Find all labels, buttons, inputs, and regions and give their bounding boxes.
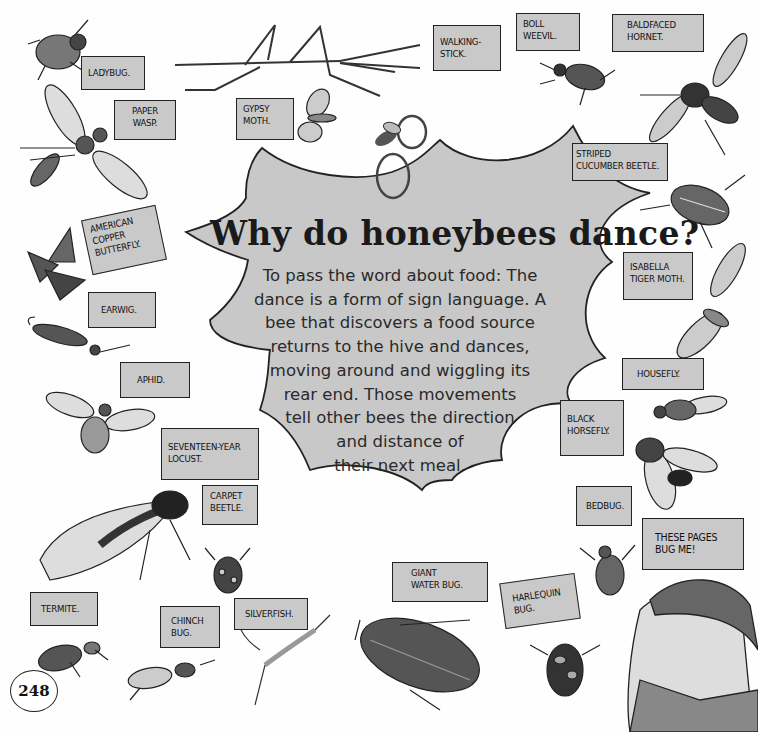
- label-text: HOUSEFLY.: [637, 368, 697, 380]
- label-text: BALDFACED: [627, 19, 697, 31]
- label-walking-stick: WALKING- STICK.: [433, 25, 501, 71]
- termite-icon: [36, 641, 108, 677]
- label-seventeen-year-locust: SEVENTEEN-YEAR LOCUST.: [161, 428, 259, 480]
- paper-wasp-icon: [20, 80, 154, 206]
- ladybug-icon: [28, 20, 88, 80]
- walking-stick-icon: [175, 25, 420, 96]
- black-horsefly-icon: [636, 438, 720, 513]
- label-text: STICK.: [440, 48, 494, 60]
- harlequin-bug-icon: [530, 644, 600, 696]
- label-text: SEVENTEEN-YEAR: [168, 441, 252, 453]
- label-text: CUCUMBER BEETLE.: [576, 160, 661, 172]
- label-chinch-bug: CHINCH BUG.: [160, 606, 220, 648]
- label-text: BEDBUG.: [586, 500, 625, 512]
- label-text: GIANT: [411, 567, 481, 579]
- giant-water-bug-icon: [351, 604, 489, 710]
- striped-cucumber-beetle-icon: [640, 175, 745, 248]
- label-termite: TERMITE.: [30, 592, 98, 626]
- label-text: PAPER: [121, 105, 169, 117]
- label-ladybug: LADYBUG.: [81, 56, 145, 90]
- boy-figure-icon: [628, 580, 758, 732]
- label-text: WATER BUG.: [411, 579, 481, 591]
- gypsy-moth-icon: [298, 85, 336, 142]
- label-text: CHINCH: [171, 615, 213, 627]
- label-these-pages-bug-me: THESE PAGES BUG ME!: [642, 518, 744, 570]
- label-isabella-tiger-moth: ISABELLA TIGER MOTH.: [623, 252, 693, 300]
- label-text: LADYBUG.: [88, 67, 138, 79]
- label-bedbug: BEDBUG.: [576, 486, 632, 526]
- label-text: THESE PAGES: [655, 531, 737, 543]
- label-black-horsefly: BLACK HORSEFLY.: [560, 400, 624, 456]
- label-text: WEEVIL.: [523, 30, 573, 42]
- bedbug-icon: [580, 545, 635, 595]
- label-text: LOCUST.: [168, 453, 252, 465]
- book-page: Why do honeybees dance? To pass the word…: [0, 0, 758, 732]
- label-text: BUG ME!: [655, 543, 737, 555]
- label-housefly: HOUSEFLY.: [622, 358, 704, 390]
- label-boll-weevil: BOLL WEEVIL.: [516, 13, 580, 51]
- label-carpet-beetle: CARPET BEETLE.: [202, 485, 258, 525]
- housefly-icon: [654, 393, 728, 420]
- label-text: TIGER MOTH.: [630, 273, 686, 285]
- label-text: APHID.: [137, 374, 183, 386]
- label-silverfish: SILVERFISH.: [234, 598, 308, 630]
- label-text: GYPSY: [243, 103, 287, 115]
- label-earwig: EARWIG.: [88, 292, 156, 328]
- label-text: TERMITE.: [41, 603, 91, 615]
- label-text: CARPET: [210, 490, 251, 502]
- chinch-bug-icon: [127, 660, 215, 700]
- label-text: HORNET.: [627, 31, 697, 43]
- label-text: ISABELLA: [630, 261, 686, 273]
- label-aphid: APHID.: [120, 362, 190, 398]
- label-text: BEETLE.: [210, 502, 251, 514]
- label-text: STRIPED: [576, 148, 661, 160]
- label-giant-water-bug: GIANT WATER BUG.: [392, 562, 488, 602]
- label-paper-wasp: PAPER WASP.: [114, 100, 176, 140]
- label-text: MOTH.: [243, 115, 287, 127]
- page-number: 248: [10, 670, 58, 712]
- label-text: EARWIG.: [101, 304, 149, 316]
- label-baldfaced-hornet: BALDFACED HORNET.: [612, 14, 704, 52]
- seventeen-year-locust-icon: [40, 491, 190, 580]
- label-text: WALKING-: [440, 36, 494, 48]
- label-text: BLACK: [567, 413, 617, 425]
- carpet-beetle-icon: [205, 548, 250, 593]
- label-text: HORSEFLY.: [567, 425, 617, 437]
- boll-weevil-icon: [540, 60, 615, 105]
- label-text: BUG.: [171, 627, 213, 639]
- label-text: BOLL: [523, 18, 573, 30]
- label-gypsy-moth: GYPSY MOTH.: [236, 98, 294, 140]
- label-striped-cucumber-beetle: STRIPED CUCUMBER BEETLE.: [572, 143, 668, 181]
- label-text: WASP.: [121, 117, 169, 129]
- american-copper-butterfly-icon: [28, 228, 85, 300]
- label-text: SILVERFISH.: [245, 608, 301, 620]
